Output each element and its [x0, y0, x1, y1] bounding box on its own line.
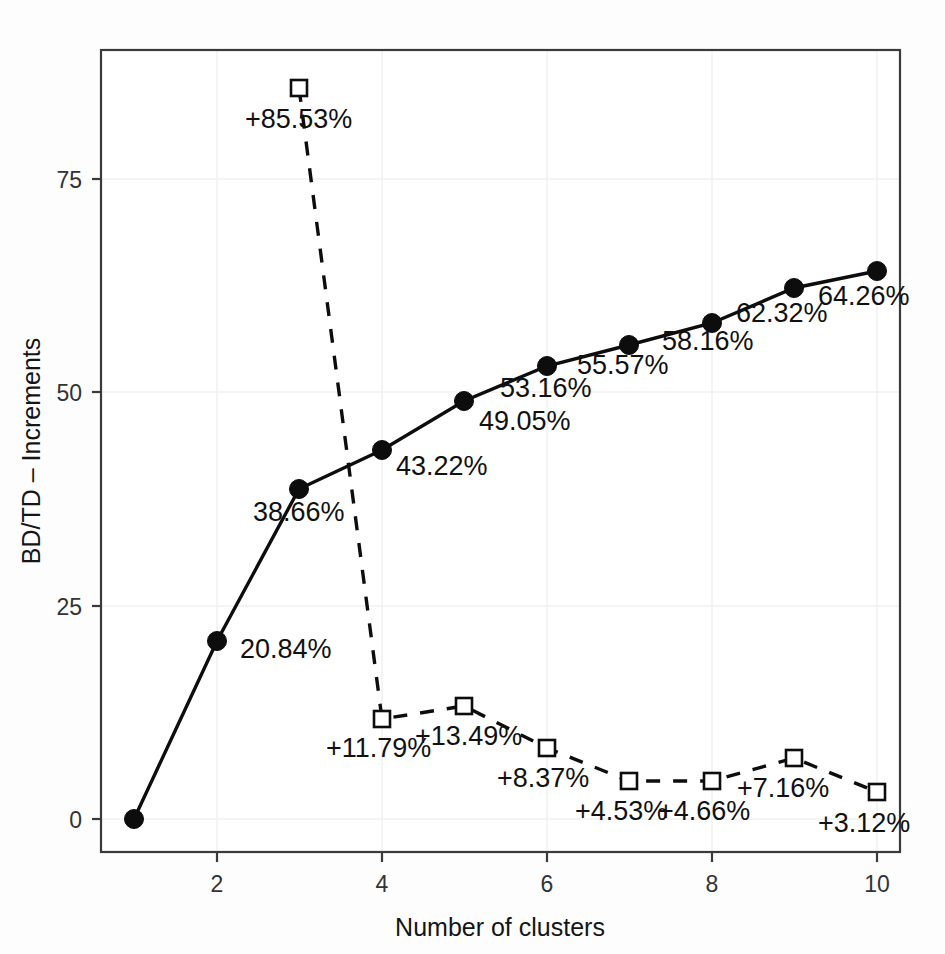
ytick-label-0: 0 — [69, 807, 82, 833]
data-point-cumulative-9[interactable] — [785, 279, 804, 298]
point-label-cumulative-5: 49.05% — [479, 406, 571, 436]
xtick-label-8: 8 — [706, 871, 719, 897]
point-label-cumulative-4: 43.22% — [396, 451, 488, 481]
xtick-label-10: 10 — [864, 871, 890, 897]
data-point-cumulative-3[interactable] — [290, 480, 309, 499]
data-point-increment-8[interactable] — [704, 773, 720, 789]
chart-page: 0 25 50 75 2 4 6 8 10 Number of clusters… — [0, 0, 945, 954]
data-point-increment-9[interactable] — [786, 750, 802, 766]
point-label-cumulative-10: 64.26% — [818, 281, 910, 311]
data-point-increment-5[interactable] — [456, 698, 472, 714]
point-label-cumulative-8: 58.16% — [662, 326, 754, 356]
data-point-increment-7[interactable] — [621, 773, 637, 789]
xtick-label-2: 2 — [211, 871, 224, 897]
point-label-cumulative-3: 38.66% — [253, 497, 345, 527]
data-point-increment-3[interactable] — [291, 80, 307, 96]
xtick-label-6: 6 — [541, 871, 554, 897]
xtick-label-4: 4 — [376, 871, 389, 897]
data-point-cumulative-1[interactable] — [125, 810, 144, 829]
point-label-increment-10: +3.12% — [818, 808, 910, 838]
data-point-cumulative-10[interactable] — [868, 262, 887, 281]
data-point-increment-4[interactable] — [374, 711, 390, 727]
y-axis-ticks — [92, 179, 101, 819]
point-label-increment-6: +8.37% — [497, 763, 589, 793]
point-label-increment-3: +85.53% — [245, 104, 352, 134]
data-point-increment-6[interactable] — [539, 740, 555, 756]
ytick-label-50: 50 — [56, 380, 82, 406]
point-label-cumulative-2: 20.84% — [240, 634, 332, 664]
data-point-increment-10[interactable] — [869, 784, 885, 800]
data-point-cumulative-4[interactable] — [373, 441, 392, 460]
point-label-cumulative-7: 55.57% — [577, 350, 669, 380]
data-point-cumulative-5[interactable] — [455, 392, 474, 411]
point-label-increment-7: +4.53% — [575, 796, 667, 826]
ytick-label-25: 25 — [56, 594, 82, 620]
point-label-increment-9: +7.16% — [737, 773, 829, 803]
ytick-label-75: 75 — [56, 167, 82, 193]
line-chart: 0 25 50 75 2 4 6 8 10 Number of clusters… — [0, 0, 945, 954]
point-label-increment-5: +13.49% — [415, 721, 522, 751]
data-point-cumulative-2[interactable] — [208, 632, 227, 651]
x-axis-title: Number of clusters — [395, 913, 605, 941]
y-axis-title: BD/TD – Increments — [17, 338, 45, 564]
point-label-cumulative-9: 62.32% — [736, 298, 828, 328]
x-axis-ticks — [217, 852, 877, 862]
